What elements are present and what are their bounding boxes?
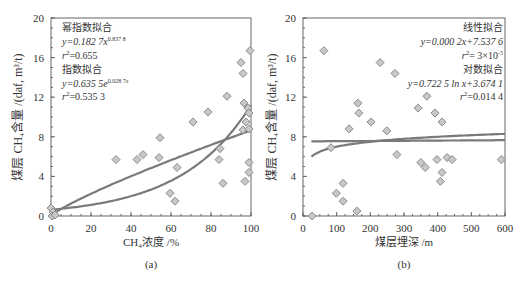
x-axis-label-b: 煤层埋深 /m	[375, 236, 434, 248]
svg-text:60: 60	[166, 222, 178, 234]
fit-name-linear: 线性拟合	[463, 21, 503, 33]
svg-text:100: 100	[328, 222, 345, 234]
svg-text:煤层 CH₄含量 /(daf, m³/t): 煤层 CH₄含量 /(daf, m³/t)	[10, 53, 25, 180]
fit-name-log: 对数拟合	[463, 63, 503, 75]
data-point	[376, 59, 384, 67]
svg-text:12: 12	[285, 91, 296, 103]
fit-name-power: 幂指数拟合	[62, 21, 112, 33]
data-point	[239, 69, 247, 77]
data-point	[423, 92, 431, 100]
svg-text:20: 20	[33, 12, 45, 24]
panel-label-a: (a)	[145, 258, 158, 271]
data-point	[367, 118, 375, 126]
y-axis-label-a: 煤层 CH₄含量 /(daf, m³/t)	[10, 53, 25, 180]
data-point	[353, 207, 361, 215]
data-point	[391, 69, 399, 77]
svg-text:0: 0	[300, 222, 306, 234]
fit-name-exp: 指数拟合	[62, 63, 102, 75]
x-axis-ticks-a: 020406080100	[48, 212, 260, 234]
fit-r2-linear: r2= 3×10-5	[462, 49, 503, 61]
svg-text:4: 4	[291, 170, 297, 182]
data-point	[327, 144, 335, 152]
data-point	[245, 159, 253, 167]
y-axis-ticks-a: 048121620	[33, 12, 55, 222]
fit-curves-b	[311, 134, 505, 157]
data-point	[246, 47, 254, 55]
svg-text:0: 0	[48, 222, 54, 234]
data-point	[156, 134, 164, 142]
data-point	[155, 154, 163, 162]
y-axis-label-b: 煤层 CH₄含量 /(daf, m³/t)	[264, 53, 279, 180]
data-point	[438, 168, 446, 176]
svg-text:煤层 CH₄含量 /(daf, m³/t): 煤层 CH₄含量 /(daf, m³/t)	[264, 53, 279, 180]
svg-text:600: 600	[497, 222, 514, 234]
data-point	[245, 168, 253, 176]
svg-text:0: 0	[291, 210, 297, 222]
data-point	[215, 156, 223, 164]
fit-equation-power: y=0.182 7x0.837 8	[61, 36, 126, 47]
chart-b-svg: 煤层 CH₄含量 /(daf, m³/t) 048121620 01002003…	[263, 0, 526, 288]
svg-text:16: 16	[33, 52, 45, 64]
data-point	[345, 125, 353, 133]
fit-r2-exp: r2=0.535 3	[62, 90, 105, 102]
data-point	[173, 163, 181, 171]
x-axis-label-a: CH₄浓度 /%	[123, 235, 179, 248]
fit-r2-power: r2=0.655	[62, 49, 98, 61]
data-point	[320, 47, 328, 55]
fit-equation-exp: y=0.635 5e0.028 7x	[61, 78, 129, 89]
svg-text:20: 20	[285, 12, 297, 24]
svg-text:8: 8	[291, 131, 297, 143]
svg-text:300: 300	[396, 222, 413, 234]
data-point	[133, 156, 141, 164]
plot-frame-a	[51, 18, 251, 216]
data-point	[339, 179, 347, 187]
data-point	[383, 127, 391, 135]
data-point	[241, 177, 249, 185]
svg-text:400: 400	[429, 222, 446, 234]
svg-text:12: 12	[33, 91, 44, 103]
svg-text:500: 500	[463, 222, 480, 234]
data-point	[414, 104, 422, 112]
legend-annotation-b: 线性拟合 y=0.000 2x+7.537 6 r2= 3×10-5 对数拟合 …	[407, 21, 503, 102]
data-point	[171, 197, 179, 205]
data-point	[237, 59, 245, 67]
data-point	[354, 99, 362, 107]
data-point	[339, 197, 347, 205]
data-point	[431, 109, 439, 117]
data-point	[355, 109, 363, 117]
svg-text:16: 16	[285, 52, 297, 64]
data-point	[497, 156, 505, 164]
data-point	[189, 118, 197, 126]
data-point	[112, 156, 120, 164]
fit-equation-linear: y=0.000 2x+7.537 6	[420, 36, 503, 47]
data-point	[332, 189, 340, 197]
svg-text:20: 20	[86, 222, 98, 234]
data-point	[393, 151, 401, 159]
panel-label-b: (b)	[398, 258, 411, 271]
data-point	[438, 118, 446, 126]
svg-text:100: 100	[243, 222, 260, 234]
svg-text:4: 4	[39, 170, 45, 182]
data-point	[216, 145, 224, 153]
legend-annotation-a: 幂指数拟合 y=0.182 7x0.837 8 r2=0.655 指数拟合 y=…	[61, 21, 129, 102]
data-point	[436, 177, 444, 185]
fit-equation-log: y=0.722 5 ln x+3.674 1	[407, 78, 503, 89]
data-point	[204, 108, 212, 116]
svg-text:80: 80	[206, 222, 218, 234]
plot-frame-b	[303, 18, 505, 216]
chart-panel-a: 煤层 CH₄含量 /(daf, m³/t) 048121620 02040608…	[0, 0, 263, 288]
chart-a-svg: 煤层 CH₄含量 /(daf, m³/t) 048121620 02040608…	[0, 0, 263, 288]
data-point	[223, 92, 231, 100]
data-point	[219, 179, 227, 187]
svg-text:40: 40	[126, 222, 138, 234]
data-point	[433, 156, 441, 164]
chart-panel-b: 煤层 CH₄含量 /(daf, m³/t) 048121620 01002003…	[263, 0, 526, 288]
x-axis-ticks-b: 0100200300400500600	[300, 212, 514, 234]
fit-r2-log: r2=0.014 4	[460, 90, 503, 102]
data-point	[139, 151, 147, 159]
data-point	[308, 212, 316, 220]
svg-text:0: 0	[39, 210, 45, 222]
data-point	[166, 189, 174, 197]
svg-text:200: 200	[362, 222, 379, 234]
svg-text:8: 8	[39, 131, 45, 143]
